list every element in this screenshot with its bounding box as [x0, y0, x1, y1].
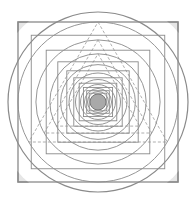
geometric-diagram [0, 0, 196, 203]
center-circle [90, 94, 106, 110]
diagram-canvas [0, 0, 196, 203]
